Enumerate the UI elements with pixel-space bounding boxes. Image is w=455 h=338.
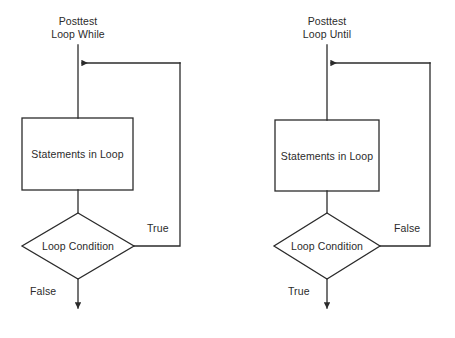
right-false-return-path	[380, 63, 430, 246]
left-process-box	[22, 118, 133, 190]
left-true-return-path	[134, 63, 180, 246]
flowchart-canvas: Posttest Loop While Statements in Loop L…	[0, 0, 455, 338]
left-decision-diamond	[22, 213, 134, 279]
flowchart-lines	[0, 0, 455, 338]
right-decision-diamond	[274, 213, 380, 279]
right-process-box	[275, 120, 379, 191]
